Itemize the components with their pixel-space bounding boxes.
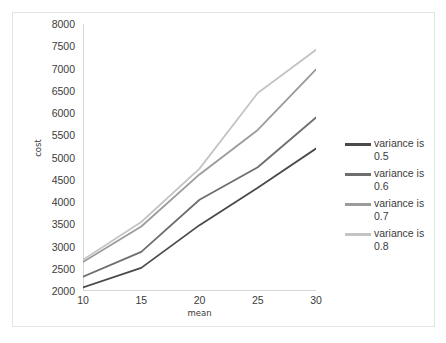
y-tick-label: 4500 [31, 175, 75, 185]
plot-wrapper: cost 80007500700065006000550050004500400… [13, 13, 333, 328]
x-tick-label: 10 [63, 294, 103, 306]
legend-swatch-icon [345, 143, 371, 146]
series-line [83, 50, 316, 260]
legend-label: variance is 0.6 [374, 167, 436, 193]
y-tick-label: 5000 [31, 153, 75, 163]
series-line [83, 69, 316, 262]
series-lines [83, 24, 316, 291]
legend-label: variance is 0.5 [374, 137, 436, 163]
y-tick-label: 5500 [31, 130, 75, 140]
x-tick-label: 20 [180, 294, 220, 306]
legend-swatch-icon [345, 173, 371, 176]
x-tick-label: 30 [296, 294, 336, 306]
y-tick-label: 8000 [31, 19, 75, 29]
x-tick-label: 15 [121, 294, 161, 306]
y-tick-label: 7000 [31, 64, 75, 74]
x-tick-label: 25 [238, 294, 278, 306]
y-tick-label: 4000 [31, 197, 75, 207]
legend-item[interactable]: variance is 0.5 [345, 137, 437, 163]
legend-swatch-icon [345, 233, 371, 236]
y-axis-tick-labels: 8000750070006500600055005000450040003500… [31, 13, 75, 328]
legend-item[interactable]: variance is 0.8 [345, 227, 437, 253]
legend-item[interactable]: variance is 0.7 [345, 197, 437, 223]
legend-item[interactable]: variance is 0.6 [345, 167, 437, 193]
y-tick-label: 6000 [31, 108, 75, 118]
y-tick-label: 3500 [31, 219, 75, 229]
legend-label: variance is 0.8 [374, 227, 436, 253]
legend-swatch-icon [345, 203, 371, 206]
chart-container: cost 80007500700065006000550050004500400… [12, 12, 435, 327]
x-axis-label: mean [83, 308, 316, 318]
chart-legend: variance is 0.5variance is 0.6variance i… [345, 137, 437, 257]
series-line [83, 117, 316, 276]
legend-label: variance is 0.7 [374, 197, 436, 223]
y-tick-label: 6500 [31, 86, 75, 96]
plot-area [83, 24, 316, 291]
y-tick-label: 7500 [31, 41, 75, 51]
y-tick-label: 3000 [31, 242, 75, 252]
y-tick-label: 2500 [31, 264, 75, 274]
